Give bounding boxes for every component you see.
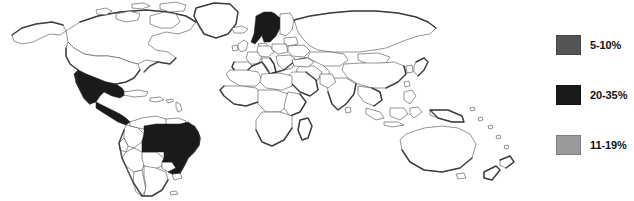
islands-pacific-scatter-4 [504,145,509,149]
legend-item-0[interactable]: 5-10% [556,34,621,56]
country-morocco-algeria [226,70,262,86]
legend-item-1[interactable]: 20-35% [556,84,627,106]
legend-item-2[interactable]: 11-19% [556,134,627,156]
choropleth-figure: 5-10% 20-35% 11-19% [0,0,634,201]
country-poland [272,44,288,54]
country-germany [257,46,274,57]
map-legend: 5-10% 20-35% 11-19% [556,0,634,201]
island-cuba [124,90,148,97]
island-puerto-rico [166,99,174,103]
islands-pacific-scatter-1 [478,117,483,121]
region-central-america [96,102,130,125]
country-ireland [232,45,238,51]
country-argentina [144,166,168,196]
island-taiwan [404,81,410,87]
legend-swatch-icon-1 [556,85,581,105]
legend-label-2: 11-19% [590,140,627,151]
island-borneo [390,108,408,120]
country-greenland [194,3,238,38]
region-east-africa [284,92,306,116]
island-philippines [404,90,416,104]
island-hispaniola [150,97,164,102]
islands-pacific-scatter-2 [488,125,493,129]
island-tasmania [456,173,466,179]
island-arctic-small-2 [132,3,150,9]
island-lesser-antilles [176,102,182,112]
island-sri-lanka [345,107,351,113]
country-ukraine [288,45,310,57]
region-south-america [119,116,200,196]
island-sulawesi [410,107,422,118]
world-map-panel [0,0,548,201]
island-falklands [170,191,178,195]
country-uk [238,40,248,52]
legend-label-0: 5-10% [590,40,621,51]
islands-pacific-scatter-5 [470,107,475,111]
region-asia [288,11,464,127]
island-sumatra [366,108,384,120]
country-alaska [12,22,66,44]
island-java [384,122,404,127]
country-korea [406,65,413,73]
country-libya-egypt [260,73,292,90]
island-ellesmere [160,2,186,12]
legend-label-1: 20-35% [590,90,627,101]
country-mongolia [358,53,390,64]
legend-swatch-icon-2 [556,135,581,155]
islands-pacific-scatter-3 [496,135,501,139]
world-map-svg [0,0,548,201]
country-finland [280,13,294,36]
legend-swatch-icon-0 [556,35,581,55]
region-north-america [12,2,238,125]
